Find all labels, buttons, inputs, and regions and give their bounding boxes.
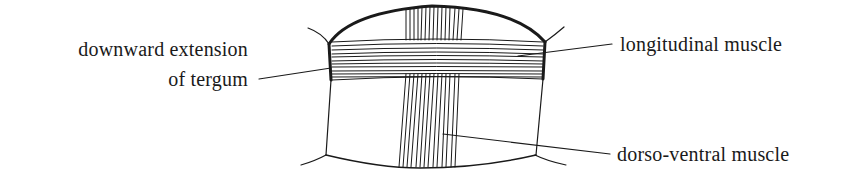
adjacent-segment-arc-bottom-right: [535, 155, 566, 165]
label-longitudinal-muscle: longitudinal muscle: [620, 33, 782, 55]
side-wall-left: [326, 80, 331, 155]
longitudinal-muscle: [332, 39, 543, 80]
adjacent-segment-arc-top-right: [545, 27, 564, 42]
adjacent-segment-arc-bottom-left: [301, 155, 326, 165]
label-tergum-line1: downward extension: [30, 38, 248, 60]
dorso-ventral-muscle-upper: [406, 7, 463, 40]
tergum-extension-left: [329, 44, 331, 80]
leader-line-tergum: [259, 68, 331, 79]
side-wall-right: [536, 79, 543, 155]
leader-line-dorso-ventral: [443, 134, 610, 154]
adjacent-segment-arc-top-left: [308, 28, 329, 44]
label-dorso-ventral-muscle: dorso-ventral muscle: [617, 143, 789, 165]
sternum-outline: [326, 155, 536, 168]
tergum-extension-right: [543, 42, 545, 79]
dorso-ventral-muscle-lower: [399, 74, 459, 167]
label-tergum-line2: of tergum: [30, 68, 248, 90]
